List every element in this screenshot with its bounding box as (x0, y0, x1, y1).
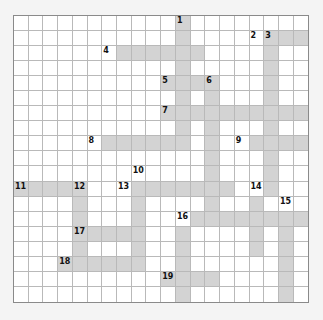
answer-cell[interactable] (161, 46, 176, 61)
answer-cell[interactable] (235, 106, 250, 121)
answer-cell[interactable] (176, 136, 191, 151)
answer-cell[interactable] (132, 212, 147, 227)
answer-cell[interactable] (205, 197, 220, 212)
answer-cell[interactable] (264, 91, 279, 106)
answer-cell[interactable] (176, 106, 191, 121)
answer-cell[interactable] (73, 242, 88, 257)
answer-cell[interactable] (220, 106, 235, 121)
answer-cell[interactable]: 6 (205, 76, 220, 91)
answer-cell[interactable] (73, 197, 88, 212)
answer-cell[interactable] (117, 257, 132, 272)
answer-cell[interactable]: 19 (161, 272, 176, 287)
answer-cell[interactable]: 1 (176, 16, 191, 31)
answer-cell[interactable] (161, 182, 176, 197)
answer-cell[interactable] (146, 136, 161, 151)
answer-cell[interactable] (294, 106, 309, 121)
answer-cell[interactable] (176, 182, 191, 197)
answer-cell[interactable] (264, 212, 279, 227)
answer-cell[interactable]: 17 (73, 227, 88, 242)
answer-cell[interactable] (191, 46, 206, 61)
answer-cell[interactable] (264, 182, 279, 197)
answer-cell[interactable] (176, 227, 191, 242)
answer-cell[interactable] (294, 31, 309, 46)
answer-cell[interactable] (205, 136, 220, 151)
answer-cell[interactable] (176, 272, 191, 287)
answer-cell[interactable] (191, 212, 206, 227)
answer-cell[interactable]: 11 (14, 182, 29, 197)
answer-cell[interactable] (88, 257, 103, 272)
answer-cell[interactable] (176, 31, 191, 46)
answer-cell[interactable] (279, 136, 294, 151)
answer-cell[interactable]: 18 (58, 257, 73, 272)
answer-cell[interactable] (73, 212, 88, 227)
answer-cell[interactable] (88, 227, 103, 242)
answer-cell[interactable] (205, 121, 220, 136)
answer-cell[interactable] (250, 212, 265, 227)
answer-cell[interactable] (250, 227, 265, 242)
answer-cell[interactable] (161, 136, 176, 151)
answer-cell[interactable] (205, 91, 220, 106)
answer-cell[interactable] (279, 242, 294, 257)
answer-cell[interactable] (176, 91, 191, 106)
answer-cell[interactable] (279, 287, 294, 302)
answer-cell[interactable] (264, 106, 279, 121)
answer-cell[interactable] (205, 182, 220, 197)
answer-cell[interactable] (264, 61, 279, 76)
answer-cell[interactable] (102, 227, 117, 242)
answer-cell[interactable] (264, 76, 279, 91)
answer-cell[interactable] (294, 212, 309, 227)
answer-cell[interactable] (191, 272, 206, 287)
answer-cell[interactable] (132, 242, 147, 257)
answer-cell[interactable] (279, 257, 294, 272)
answer-cell[interactable] (102, 136, 117, 151)
answer-cell[interactable] (264, 121, 279, 136)
answer-cell[interactable] (176, 257, 191, 272)
answer-cell[interactable] (235, 212, 250, 227)
answer-cell[interactable] (146, 46, 161, 61)
answer-cell[interactable] (205, 166, 220, 181)
answer-cell[interactable] (132, 257, 147, 272)
answer-cell[interactable] (117, 227, 132, 242)
answer-cell[interactable] (176, 121, 191, 136)
answer-cell[interactable] (176, 46, 191, 61)
answer-cell[interactable] (58, 182, 73, 197)
answer-cell[interactable] (176, 242, 191, 257)
answer-cell[interactable] (29, 182, 44, 197)
answer-cell[interactable] (132, 46, 147, 61)
answer-cell[interactable] (264, 151, 279, 166)
answer-cell[interactable] (279, 31, 294, 46)
answer-cell[interactable] (294, 136, 309, 151)
answer-cell[interactable]: 3 (264, 31, 279, 46)
answer-cell[interactable] (279, 272, 294, 287)
answer-cell[interactable] (43, 182, 58, 197)
answer-cell[interactable] (220, 212, 235, 227)
answer-cell[interactable] (279, 212, 294, 227)
answer-cell[interactable] (176, 76, 191, 91)
answer-cell[interactable] (264, 166, 279, 181)
answer-cell[interactable] (117, 136, 132, 151)
answer-cell[interactable] (176, 61, 191, 76)
answer-cell[interactable] (132, 197, 147, 212)
answer-cell[interactable] (146, 182, 161, 197)
answer-cell[interactable] (279, 106, 294, 121)
answer-cell[interactable] (132, 136, 147, 151)
answer-cell[interactable] (205, 272, 220, 287)
answer-cell[interactable] (279, 227, 294, 242)
answer-cell[interactable]: 7 (161, 106, 176, 121)
answer-cell[interactable] (205, 212, 220, 227)
answer-cell[interactable] (205, 151, 220, 166)
answer-cell[interactable] (132, 227, 147, 242)
answer-cell[interactable] (250, 197, 265, 212)
answer-cell[interactable] (250, 136, 265, 151)
answer-cell[interactable] (191, 76, 206, 91)
answer-cell[interactable] (132, 182, 147, 197)
answer-cell[interactable] (250, 242, 265, 257)
answer-cell[interactable] (117, 46, 132, 61)
answer-cell[interactable] (176, 287, 191, 302)
answer-cell[interactable] (102, 257, 117, 272)
answer-cell[interactable] (264, 136, 279, 151)
answer-cell[interactable] (220, 182, 235, 197)
answer-cell[interactable] (264, 46, 279, 61)
answer-cell[interactable] (73, 257, 88, 272)
answer-cell[interactable] (250, 106, 265, 121)
